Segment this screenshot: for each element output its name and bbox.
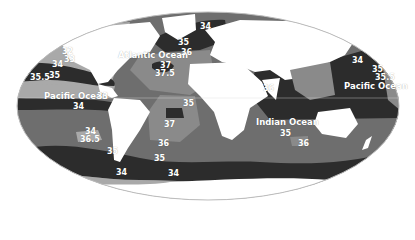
salinity-value-label: 36 (158, 140, 169, 148)
ocean-label: Indian Ocean (256, 118, 319, 127)
salinity-value-label: 36 (298, 140, 309, 148)
ocean-label: Pacific Ocean (344, 82, 408, 91)
ocean-label: Atlantic Ocean (118, 51, 188, 60)
salinity-value-label: 35 (154, 155, 165, 163)
salinity-value-label: 35 (178, 39, 189, 47)
salinity-value-label: 37.5 (155, 70, 175, 78)
land-antarctica (18, 178, 400, 206)
salinity-value-label: 36 (181, 49, 192, 57)
salinity-value-label: 35 (183, 100, 194, 108)
salinity-value-label: 35.5 (30, 74, 50, 82)
south-atlantic-37-blob (166, 108, 184, 118)
salinity-value-label: 35.5 (375, 74, 395, 82)
salinity-value-label: 34 (73, 103, 84, 111)
salinity-value-label: 34 (352, 57, 363, 65)
salinity-value-label: 34 (168, 170, 179, 178)
salinity-value-label: 36 (263, 85, 274, 93)
salinity-value-label: 37 (164, 121, 175, 129)
salinity-value-label: 36.5 (80, 136, 100, 144)
salinity-value-label: 35 (49, 72, 60, 80)
salinity-value-label: 35 (107, 148, 118, 156)
salinity-value-label: 33 (64, 56, 75, 64)
salinity-value-label: 34 (200, 23, 211, 31)
salinity-value-label: 35 (280, 130, 291, 138)
salinity-value-label: 34 (116, 169, 127, 177)
salinity-value-label: 33 (97, 93, 108, 101)
salinity-value-label: 34 (52, 61, 63, 69)
